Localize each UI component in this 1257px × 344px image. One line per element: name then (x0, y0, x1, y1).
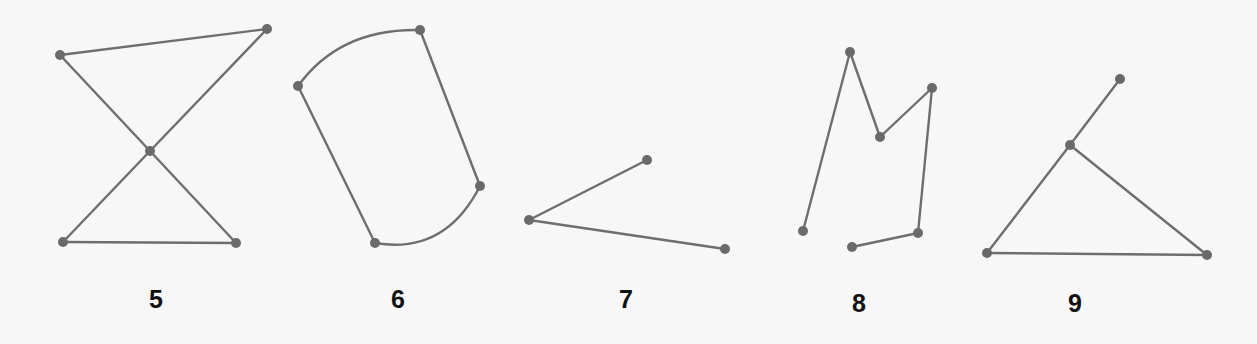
vertex-dot (415, 25, 425, 35)
vertex-dot (58, 237, 68, 247)
edge (987, 145, 1070, 253)
figure-5-label: 5 (149, 285, 163, 314)
vertex-dot (1065, 140, 1075, 150)
figure-7 (524, 155, 730, 254)
vertex-dot (847, 242, 857, 252)
figure-9 (982, 74, 1212, 260)
figure-5 (55, 24, 272, 248)
vertex-dot (982, 248, 992, 258)
figure-6 (293, 25, 485, 248)
vertex-dot (262, 24, 272, 34)
vertex-dot (293, 81, 303, 91)
edge (918, 88, 932, 233)
figure-8 (798, 47, 937, 252)
arc-edge (375, 186, 480, 245)
edge (803, 52, 850, 231)
edge (852, 233, 918, 247)
vertex-dot (370, 238, 380, 248)
edge (880, 88, 932, 137)
vertex-dot (875, 132, 885, 142)
edge (1070, 79, 1120, 145)
vertex-dot (913, 228, 923, 238)
vertex-dot (642, 155, 652, 165)
edge (298, 86, 375, 243)
edge (60, 29, 267, 55)
figure-6-label: 6 (391, 285, 405, 314)
vertex-dot (720, 244, 730, 254)
vertex-dot (927, 83, 937, 93)
vertex-dot (1115, 74, 1125, 84)
edge (150, 29, 267, 151)
edge (63, 151, 150, 242)
edge (60, 55, 150, 151)
figure-8-label: 8 (852, 289, 866, 318)
vertex-dot (798, 226, 808, 236)
edge (987, 253, 1207, 255)
figure-9-label: 9 (1068, 289, 1082, 318)
vertex-dot (55, 50, 65, 60)
edge (420, 30, 480, 186)
arc-edge (298, 30, 420, 86)
vertex-dot (524, 215, 534, 225)
edge (850, 52, 880, 137)
edge (63, 242, 236, 243)
vertex-dot (231, 238, 241, 248)
vertex-dot (845, 47, 855, 57)
vertex-dot (145, 146, 155, 156)
figure-7-label: 7 (619, 285, 633, 314)
edge (529, 220, 725, 249)
edge (529, 160, 647, 220)
edge (150, 151, 236, 243)
vertex-dot (475, 181, 485, 191)
vertex-dot (1202, 250, 1212, 260)
edge (1070, 145, 1207, 255)
